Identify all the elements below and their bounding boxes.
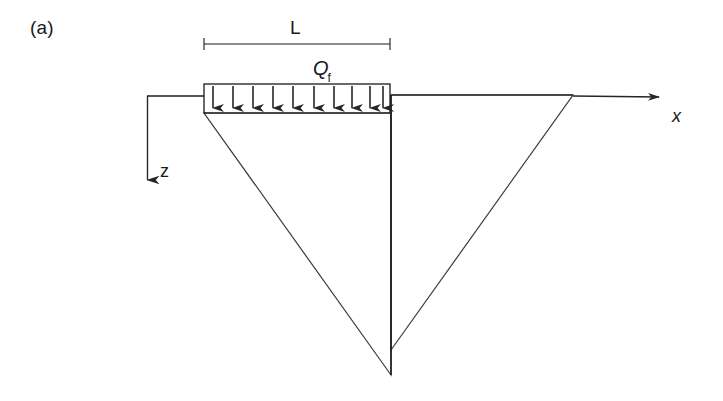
failure-wedge-left [204, 113, 391, 375]
figure-container: (a) L Qf z x [0, 0, 723, 401]
diagram-canvas [0, 0, 723, 401]
load-arrow-group [213, 86, 383, 108]
load-distribution-box [204, 84, 390, 113]
failure-wedge-right [391, 95, 573, 350]
axis-x-line [573, 96, 659, 97]
dimension-line-L [204, 38, 390, 50]
